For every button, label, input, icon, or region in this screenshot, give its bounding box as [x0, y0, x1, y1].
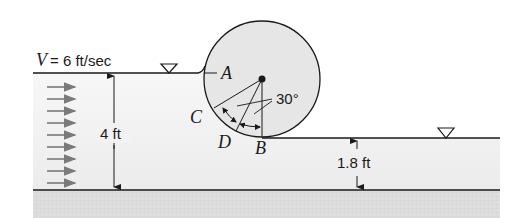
downstream-depth-label: 1.8 ft: [337, 154, 371, 171]
sluice-cylinder-diagram: V = 6 ft/sec 4 ft 1.8 ft 30° A B C D: [0, 0, 525, 218]
point-D-label: D: [217, 132, 231, 152]
channel-bed: [33, 190, 500, 218]
upstream-free-surface-icon: [161, 64, 177, 73]
point-B-label: B: [255, 138, 266, 158]
velocity-value: = 6 ft/sec: [50, 52, 112, 69]
velocity-symbol: V: [36, 50, 49, 70]
point-C-label: C: [190, 107, 203, 127]
angle-label: 30°: [276, 90, 299, 107]
point-A-label: A: [220, 63, 233, 83]
upstream-depth-label: 4 ft: [100, 125, 122, 142]
downstream-free-surface-icon: [438, 128, 454, 138]
